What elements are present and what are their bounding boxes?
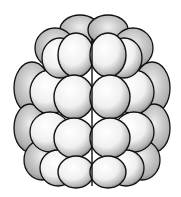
cell-cluster-drawing [0,0,181,197]
illustration [0,0,181,197]
